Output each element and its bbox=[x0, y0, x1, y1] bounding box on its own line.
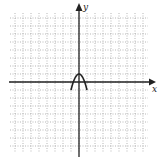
x-axis-label: x bbox=[152, 84, 157, 94]
y-axis-label: y bbox=[82, 2, 89, 12]
y-axis-arrow-icon bbox=[76, 3, 83, 11]
coordinate-plane: x y bbox=[0, 0, 160, 164]
